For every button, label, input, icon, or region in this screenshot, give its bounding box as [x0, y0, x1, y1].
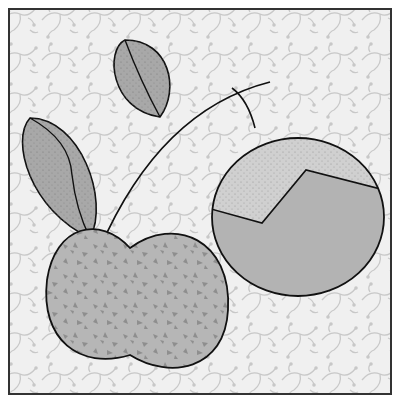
illustration-canvas [0, 0, 399, 402]
apple [46, 229, 228, 368]
